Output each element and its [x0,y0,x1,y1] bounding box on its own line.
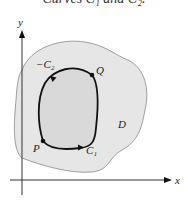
diagram: Curves C₁ and C₂. y x D P Q C₁ −C₂ [0,0,188,203]
region-label: D [117,118,126,130]
x-axis-label: x [174,174,180,186]
point-q-label: Q [96,64,104,76]
y-axis-label: y [17,16,23,28]
y-axis-arrow-icon [19,30,25,38]
curve-neg-c2-label: −C₂ [36,58,55,70]
diagram-canvas: y x D P Q C₁ −C₂ [0,0,188,203]
point-p-label: P [32,142,40,154]
curve-c1-label: C₁ [86,144,97,156]
figure-caption: Curves C₁ and C₂. [0,0,188,7]
x-axis-arrow-icon [164,177,172,183]
point-q [90,73,95,78]
point-p [41,139,46,144]
